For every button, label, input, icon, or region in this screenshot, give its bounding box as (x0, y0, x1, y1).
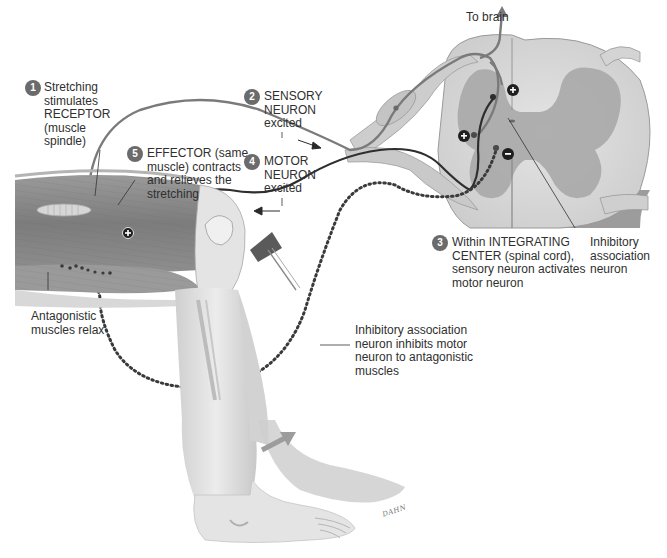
excitatory-synapse-dorsal (507, 84, 519, 96)
inhibitory-synapse (502, 148, 514, 160)
antagonistic-muscles-label: Antagonistic muscles relax (31, 310, 104, 337)
step-5-label: EFFECTOR (same muscle) contracts and rel… (147, 147, 248, 201)
step-4-label: MOTOR NEURON excited (264, 155, 316, 196)
step-3-label: Within INTEGRATING CENTER (spinal cord),… (452, 236, 585, 290)
step-2-label: SENSORY NEURON excited (264, 90, 322, 131)
step-3-badge: 3 (432, 235, 448, 251)
excitatory-synapse-muscle (123, 228, 134, 239)
to-brain-label: To brain (466, 11, 509, 25)
inhibitory-association-neuron-label: Inhibitory association neuron (590, 236, 650, 277)
step-2-badge: 2 (244, 89, 260, 105)
stretch-reflex-diagram: To brain 1 Stretching stimulates RECEPTO… (0, 0, 667, 558)
step-1-badge: 1 (25, 80, 41, 96)
sensory-direction-arrow-icon (312, 142, 321, 149)
step-4-badge: 4 (244, 154, 260, 170)
motor-direction-arrow-icon (254, 207, 262, 215)
excitatory-synapse-motor (458, 130, 470, 142)
reflex-hammer (250, 232, 300, 290)
step-1-label: Stretching stimulates RECEPTOR (muscle s… (44, 81, 110, 149)
step-5-badge: 5 (127, 146, 143, 162)
muscle-spindle (37, 204, 91, 216)
inhibitory-inhibits-motor-label: Inhibitory association neuron inhibits m… (355, 324, 473, 378)
